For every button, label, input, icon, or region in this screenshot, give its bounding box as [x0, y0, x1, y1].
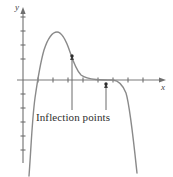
function-curve: [29, 32, 137, 176]
y-axis-label: y: [15, 3, 19, 12]
inflection-points-figure: y x Inflection points: [0, 0, 173, 177]
plot-canvas: [0, 0, 173, 177]
second-inflection-pointer: [104, 82, 108, 110]
second-inflection-point-dot: [104, 82, 107, 85]
y-axis-arrowhead: [20, 7, 25, 14]
x-axis-label: x: [161, 83, 165, 92]
first-inflection-point-dot: [70, 54, 73, 57]
inflection-points-caption: Inflection points: [36, 112, 110, 123]
